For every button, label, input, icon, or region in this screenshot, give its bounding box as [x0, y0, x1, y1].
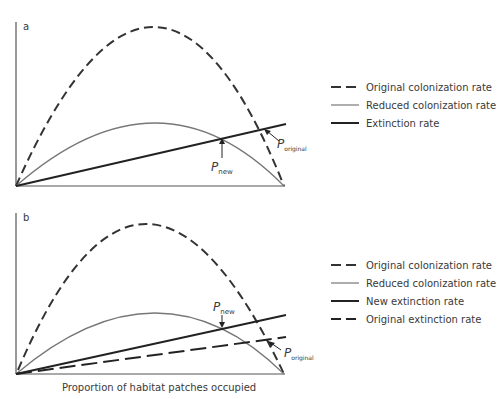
- panel-b-p-original-label: Poriginal: [284, 346, 314, 362]
- panel-b: b Pnew Poriginal Proportion of habitat p…: [16, 212, 496, 393]
- legend-a-item-3: Extinction rate: [366, 118, 439, 129]
- panel-a-original-colonization-curve: [16, 27, 284, 186]
- panel-b-p-new-label: Pnew: [213, 300, 235, 316]
- panel-b-legend: Original colonization rate Reduced colon…: [331, 260, 496, 325]
- panel-b-p-new-arrowhead-icon: [219, 322, 225, 328]
- figure: a Pnew Poriginal Original colonization r…: [0, 0, 499, 399]
- panel-a: a Pnew Poriginal Original colonization r…: [16, 21, 496, 186]
- legend-a-item-1: Original colonization rate: [366, 82, 492, 93]
- panel-b-label: b: [23, 212, 29, 223]
- legend-b-item-1: Original colonization rate: [366, 260, 492, 271]
- legend-b-item-3: New extinction rate: [366, 296, 464, 307]
- panel-b-original-colonization-curve: [18, 224, 284, 374]
- legend-a-item-2: Reduced colonization rate: [366, 100, 496, 111]
- panel-a-label: a: [23, 21, 29, 32]
- legend-b-item-2: Reduced colonization rate: [366, 278, 496, 289]
- panel-a-legend: Original colonization rate Reduced colon…: [331, 82, 496, 129]
- panel-a-p-original-label: Poriginal: [277, 137, 307, 153]
- x-axis-label: Proportion of habitat patches occupied: [62, 382, 256, 393]
- panel-a-p-new-label: Pnew: [211, 160, 233, 176]
- legend-b-item-4: Original extinction rate: [366, 314, 481, 325]
- panel-b-original-extinction-line: [16, 337, 286, 374]
